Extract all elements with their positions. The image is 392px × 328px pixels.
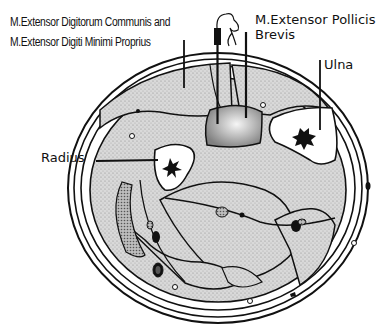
label-edc-line1: M.Extensor Digitorum Communis and xyxy=(10,16,170,30)
label-epb: M.Extensor Pollicis Brevis xyxy=(255,13,376,43)
label-epb-line1: M.Extensor Pollicis xyxy=(255,13,376,28)
label-radius: Radius xyxy=(41,151,85,166)
label-edc-line2: M.Extensor Digiti Minimi Proprius xyxy=(10,36,170,50)
target-epb-region xyxy=(206,105,262,147)
label-edc-emdp: M.Extensor Digitorum Communis and M.Exte… xyxy=(10,16,170,50)
label-ulna: Ulna xyxy=(324,58,353,73)
label-epb-line2: Brevis xyxy=(255,28,376,43)
